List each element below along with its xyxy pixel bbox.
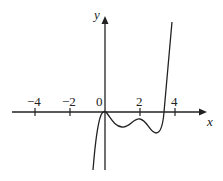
tick-label-pos2: 2 [136,94,143,109]
function-graph: −4 −2 0 2 4 x y [0,0,223,181]
tick-label-zero: 0 [96,94,103,109]
y-axis-arrow-icon [102,16,109,24]
tick-label-neg2: −2 [62,94,76,109]
y-axis-label: y [92,7,100,22]
tick-label-neg4: −4 [27,94,41,109]
tick-label-pos4: 4 [171,94,178,109]
x-axis-label: x [206,114,213,129]
x-axis-arrow-icon [199,109,207,116]
